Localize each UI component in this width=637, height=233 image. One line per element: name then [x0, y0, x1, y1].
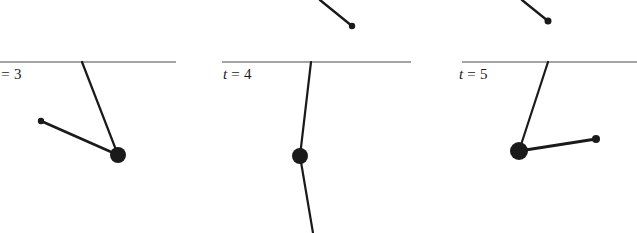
frame-label-t4-value: 4	[244, 66, 252, 82]
mass-bob-t4	[292, 148, 308, 164]
panel-t4-graphic	[222, 0, 411, 233]
frame-label-t4: t = 4	[223, 66, 252, 83]
upper-stub-dot-t5	[545, 18, 552, 25]
lower-rod-t4	[300, 156, 313, 233]
frame-label-t5: t = 5	[459, 66, 488, 83]
rod-tip-dot-t3	[38, 118, 44, 124]
frame-label-t3: t = 3	[0, 66, 22, 83]
upper-rod-t5	[519, 62, 548, 151]
frame-label-t5-variable: t	[459, 66, 463, 82]
upper-stub-rod-t4	[320, 0, 352, 26]
upper-stub-rod-t5	[522, 0, 548, 21]
upper-rod-t4	[300, 62, 311, 156]
frame-label-t4-variable: t	[223, 66, 227, 82]
frame-label-t3-equals: =	[1, 66, 10, 82]
panel-t3-graphic	[0, 62, 176, 163]
lower-rod-t5	[519, 139, 596, 151]
frame-label-t5-equals: =	[467, 66, 476, 82]
pendulum-drawing-canvas	[0, 0, 637, 233]
mass-bob-t3	[110, 147, 126, 163]
upper-stub-dot-t4	[349, 23, 355, 29]
panel-t5-graphic	[462, 0, 637, 160]
frame-label-t3-value: 3	[14, 66, 22, 82]
rod-tip-dot-t5	[592, 135, 600, 143]
double-pendulum-figure: t = 3 t = 4 t = 5	[0, 0, 637, 233]
frame-label-t4-equals: =	[231, 66, 240, 82]
frame-label-t5-value: 5	[480, 66, 488, 82]
mass-bob-t5	[510, 142, 528, 160]
